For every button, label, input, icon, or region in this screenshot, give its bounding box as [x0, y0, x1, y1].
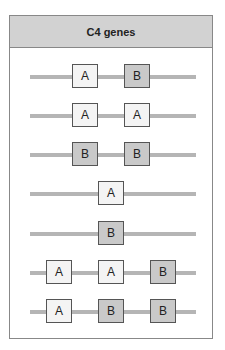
gene-row: AB: [10, 64, 212, 90]
gene-box-b: B: [150, 299, 176, 323]
gene-row: AA: [10, 103, 212, 129]
gene-box-b: B: [72, 142, 98, 166]
gene-box-b: B: [124, 64, 150, 88]
gene-row: AAB: [10, 260, 212, 286]
gene-box-a: A: [46, 260, 72, 284]
gene-box-a: A: [124, 103, 150, 127]
panel-title: C4 genes: [10, 16, 212, 48]
chromosome-line: [30, 153, 196, 157]
gene-box-b: B: [98, 221, 124, 245]
gene-row: ABB: [10, 299, 212, 325]
gene-row: B: [10, 221, 212, 247]
gene-box-a: A: [72, 103, 98, 127]
gene-box-a: A: [46, 299, 72, 323]
chromosome-line: [30, 114, 196, 118]
gene-row: A: [10, 181, 212, 207]
chromosome-line: [30, 75, 196, 79]
gene-box-b: B: [150, 260, 176, 284]
gene-row: BB: [10, 142, 212, 168]
c4-genes-panel: C4 genes ABAABBABAABABB: [9, 15, 213, 339]
gene-box-a: A: [72, 64, 98, 88]
gene-box-a: A: [98, 260, 124, 284]
gene-box-b: B: [98, 299, 124, 323]
gene-box-a: A: [98, 181, 124, 205]
gene-box-b: B: [124, 142, 150, 166]
